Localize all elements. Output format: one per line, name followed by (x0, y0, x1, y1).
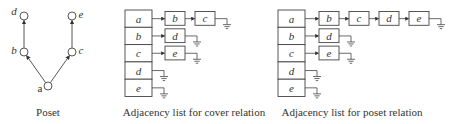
poset-caption: Poset (36, 106, 60, 118)
list-node-label: b (326, 12, 332, 24)
head-label: e (136, 82, 141, 94)
diagram-canvas: abcde Poset abcbdcede Adjacency list for… (0, 0, 463, 124)
cover-adjacency-list: abcbdcede (125, 10, 231, 98)
poset-edge (27, 56, 46, 83)
head-label: e (289, 82, 294, 94)
poset-list-caption: Adjacency list for poset relation (281, 106, 423, 118)
head-label: d (289, 65, 295, 77)
list-node-label: d (172, 30, 178, 42)
list-node-label: b (172, 12, 178, 24)
head-label: a (289, 13, 295, 25)
poset-edge (50, 56, 69, 83)
head-label: b (289, 30, 295, 42)
head-label: b (136, 30, 142, 42)
poset-node-c (68, 48, 76, 56)
poset-node-label: a (38, 82, 43, 94)
list-node-label: c (357, 12, 362, 24)
poset-node-label: b (11, 44, 17, 56)
poset-node-label: d (11, 5, 17, 17)
list-node-label: c (203, 12, 208, 24)
poset-node-d (20, 12, 28, 20)
poset-node-e (68, 12, 76, 20)
list-node-label: d (386, 12, 392, 24)
poset-node-label: c (79, 44, 84, 56)
poset-graph: abcde (11, 5, 83, 94)
poset-adjacency-list: abcdebdcede (278, 10, 445, 98)
poset-node-a (44, 82, 52, 90)
list-node-label: e (327, 47, 332, 59)
head-label: c (136, 47, 141, 59)
head-label: a (136, 13, 142, 25)
list-node-label: e (417, 12, 422, 24)
list-node-label: d (326, 30, 332, 42)
head-label: d (136, 65, 142, 77)
head-label: c (289, 47, 294, 59)
list-node-label: e (173, 47, 178, 59)
poset-node-b (20, 48, 28, 56)
cover-list-caption: Adjacency list for cover relation (123, 106, 266, 118)
poset-node-label: e (79, 8, 84, 20)
